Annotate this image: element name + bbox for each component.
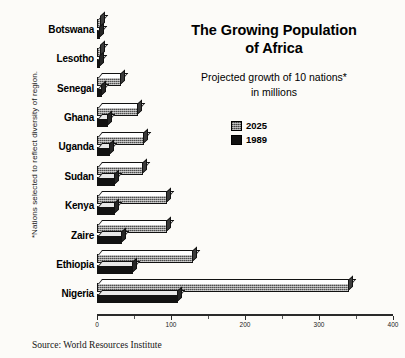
bar-group-uganda (97, 132, 393, 161)
bar-1989-nigeria (97, 294, 178, 303)
bars-container (97, 14, 393, 308)
bar-group-senegal (97, 73, 393, 102)
bar-1989-ghana (97, 118, 108, 127)
bar-1989-zaire (97, 235, 122, 244)
bar-1989-botswana (97, 30, 100, 39)
bar-group-ethiopia (97, 249, 393, 278)
category-label-nigeria: Nigeria (18, 288, 94, 299)
bar-group-nigeria (97, 279, 393, 308)
source-note: Source: World Resources Institute (32, 340, 162, 350)
axis-tick-label-400: 400 (388, 321, 399, 328)
category-label-zaire: Zaire (18, 229, 94, 240)
category-label-lesotho: Lesotho (18, 53, 94, 64)
plot-area: BotswanaLesothoSenegalGhanaUgandaSudanKe… (0, 14, 405, 314)
category-label-ghana: Ghana (18, 111, 94, 122)
bar-1989-uganda (97, 147, 110, 156)
axis-tick-label-300: 300 (314, 321, 325, 328)
bar-group-zaire (97, 220, 393, 249)
category-label-sudan: Sudan (18, 170, 94, 181)
category-axis: BotswanaLesothoSenegalGhanaUgandaSudanKe… (18, 14, 94, 308)
bar-1989-senegal (97, 88, 102, 97)
bar-group-sudan (97, 161, 393, 190)
axis-tick-100 (171, 316, 172, 320)
axis-minor-tick-250 (282, 316, 283, 319)
bar-group-kenya (97, 190, 393, 219)
value-axis: 0100200300400 (97, 314, 397, 336)
category-label-senegal: Senegal (18, 82, 94, 93)
bar-group-lesotho (97, 43, 393, 72)
axis-tick-label-200: 200 (240, 321, 251, 328)
axis-minor-tick-50 (134, 316, 135, 319)
axis-tick-400 (393, 316, 394, 320)
category-label-botswana: Botswana (18, 23, 94, 34)
axis-tick-200 (245, 316, 246, 320)
axis-tick-label-100: 100 (166, 321, 177, 328)
category-label-ethiopia: Ethiopia (18, 258, 94, 269)
bar-1989-kenya (97, 206, 115, 215)
axis-tick-0 (97, 316, 98, 320)
category-label-uganda: Uganda (18, 141, 94, 152)
chart-page: *Nations selected to reflect diversity o… (0, 0, 405, 358)
bar-group-botswana (97, 14, 393, 43)
category-label-kenya: Kenya (18, 200, 94, 211)
bar-1989-sudan (97, 177, 115, 186)
axis-tick-label-0: 0 (95, 321, 99, 328)
bar-group-ghana (97, 102, 393, 131)
axis-minor-tick-350 (356, 316, 357, 319)
bar-1989-lesotho (97, 59, 100, 68)
axis-minor-tick-150 (208, 316, 209, 319)
axis-tick-300 (319, 316, 320, 320)
bar-1989-ethiopia (97, 265, 133, 274)
